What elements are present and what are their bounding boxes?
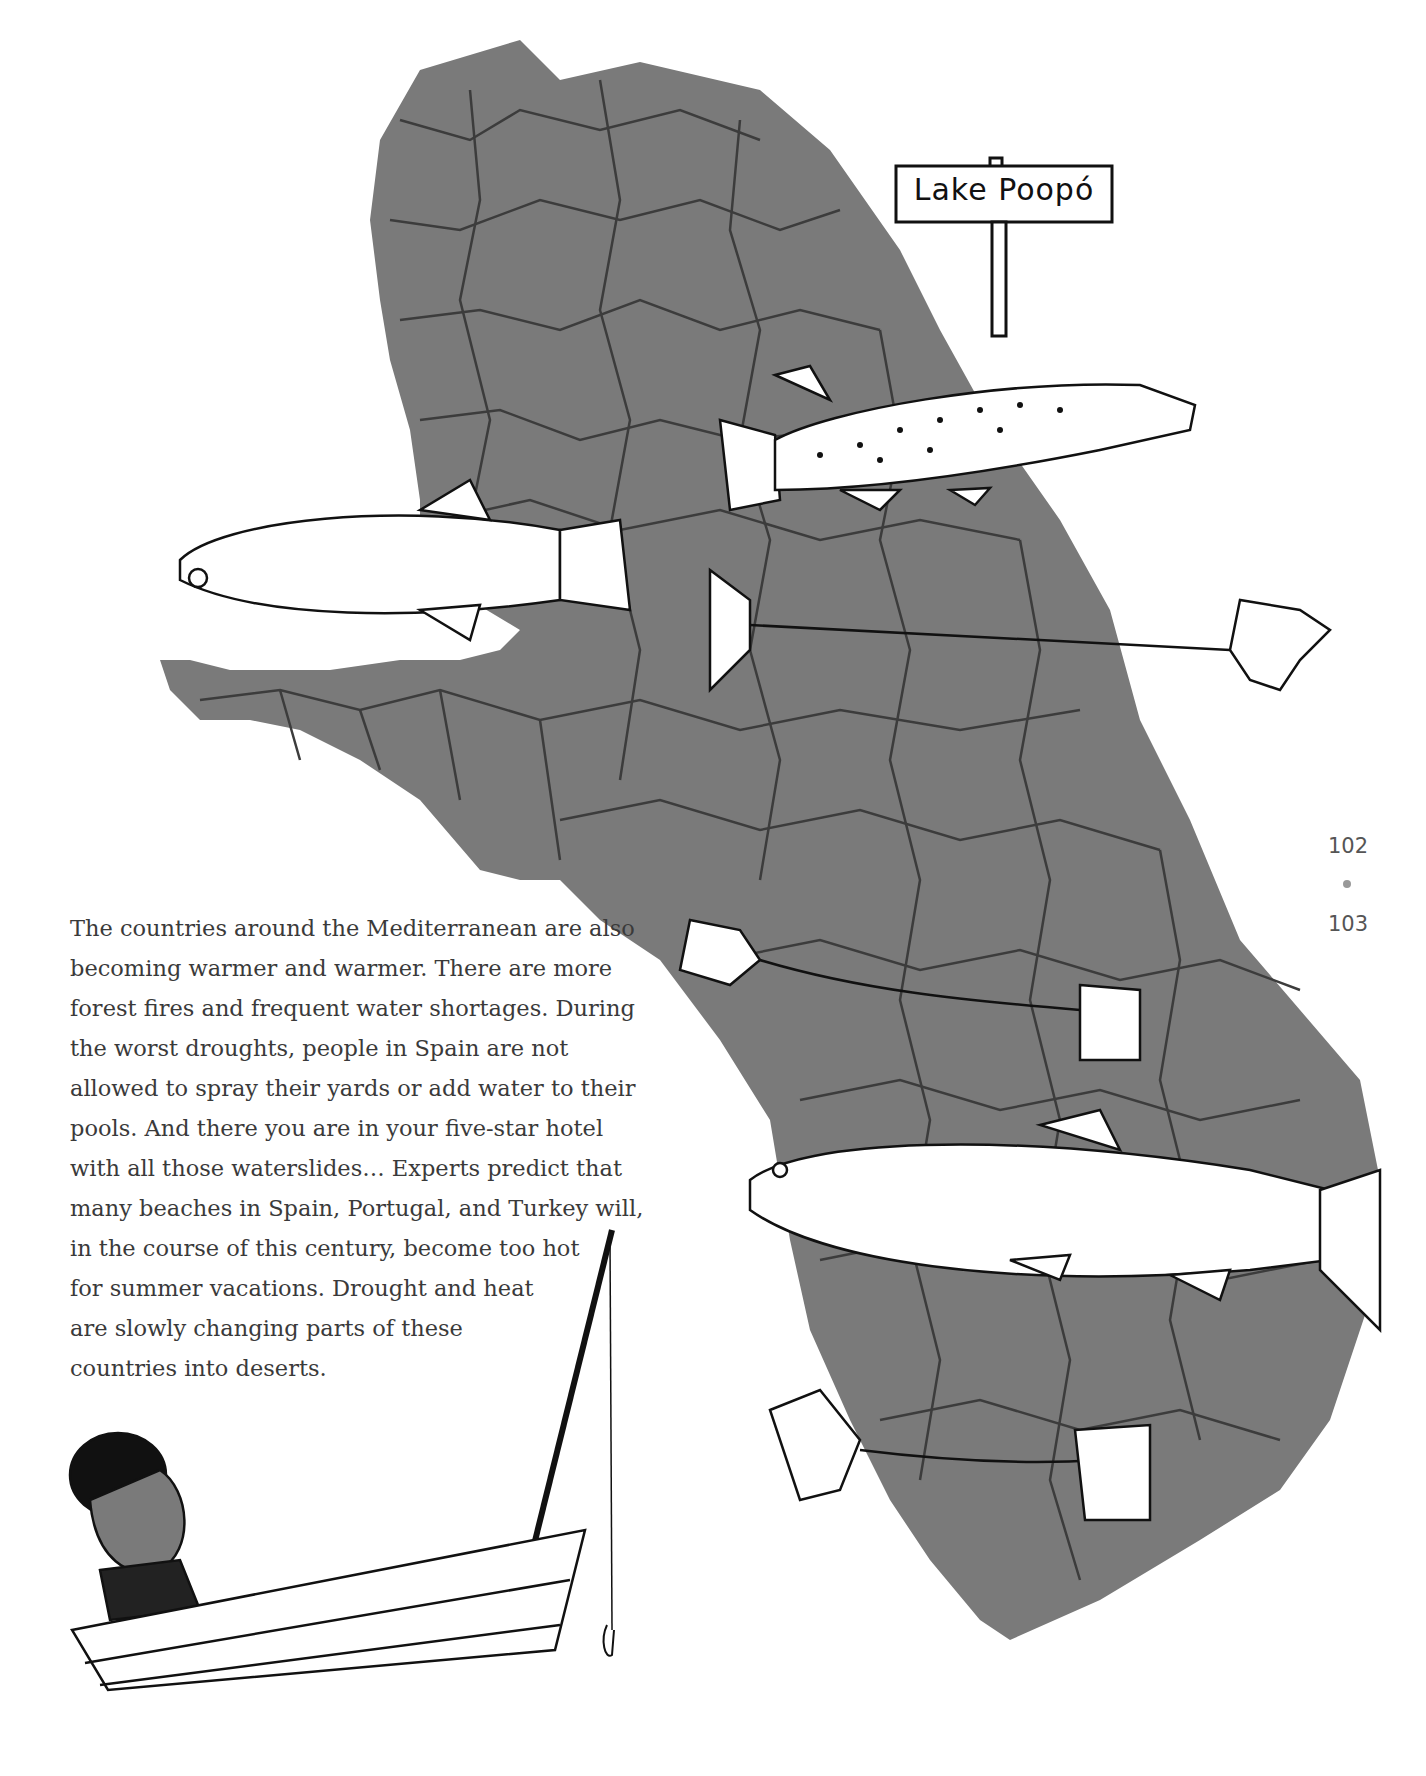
man-in-boat (70, 1433, 200, 1620)
paragraph-line: The countries around the Mediterranean a… (70, 908, 670, 948)
page-number-left: 102 (1318, 834, 1378, 858)
body-paragraph: The countries around the Mediterranean a… (70, 908, 670, 1388)
dried-lake-bed (160, 40, 1380, 1640)
paragraph-line: for summer vacations. Drought and heat (70, 1268, 670, 1308)
paragraph-line: forest fires and frequent water shortage… (70, 988, 670, 1028)
sign-label: Lake Poopó (900, 172, 1108, 207)
paragraph-line: many beaches in Spain, Portugal, and Tur… (70, 1188, 670, 1228)
paragraph-line: pools. And there you are in your five-st… (70, 1108, 670, 1148)
page-number-separator (1343, 880, 1351, 888)
paragraph-line: the worst droughts, people in Spain are … (70, 1028, 670, 1068)
paragraph-line: becoming warmer and warmer. There are mo… (70, 948, 670, 988)
paragraph-line: in the course of this century, become to… (70, 1228, 670, 1268)
page-number-right: 103 (1318, 912, 1378, 936)
paragraph-line: with all those waterslides… Experts pred… (70, 1148, 670, 1188)
lake-illustration (0, 0, 1426, 1776)
paragraph-line: allowed to spray their yards or add wate… (70, 1068, 670, 1108)
paragraph-line: countries into deserts. (70, 1348, 670, 1388)
paragraph-line: are slowly changing parts of these (70, 1308, 670, 1348)
